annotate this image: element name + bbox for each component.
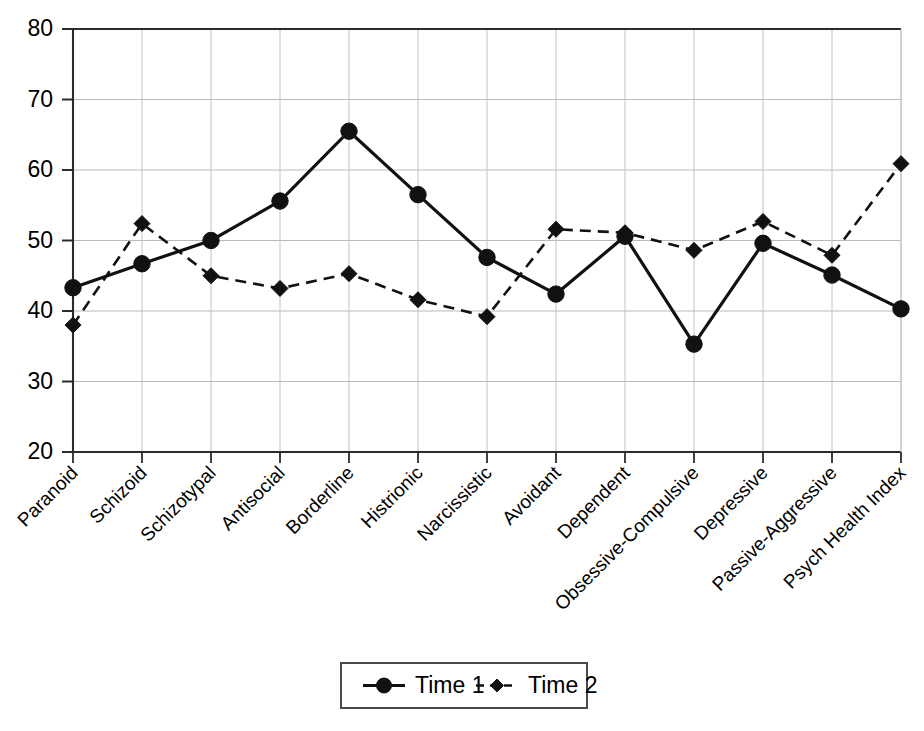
- data-point-marker: [548, 286, 564, 302]
- x-axis-ticks: [73, 452, 901, 463]
- x-axis-tick-label: Schizotypal: [136, 462, 220, 546]
- chart-legend: Time 1Time 2: [341, 663, 597, 708]
- data-point-marker: [410, 292, 426, 308]
- x-axis-tick-label: Antisocial: [216, 462, 288, 534]
- data-point-marker: [410, 186, 426, 202]
- data-point-marker: [893, 156, 909, 172]
- x-axis-tick-label: Passive-Aggressive: [708, 462, 841, 595]
- data-point-marker: [272, 193, 288, 209]
- x-axis-tick-label: Schizoid: [85, 462, 151, 528]
- x-axis-tick-label: Psych Health Index: [779, 462, 910, 593]
- y-axis-tick-labels: 20304050607080: [27, 15, 53, 464]
- data-point-marker: [341, 266, 357, 282]
- data-point-marker: [755, 235, 771, 251]
- y-axis-tick-label: 30: [27, 368, 53, 394]
- x-axis-tick-label: Obsessive-Compulsive: [551, 462, 703, 614]
- data-point-marker: [893, 301, 909, 317]
- y-axis-tick-label: 80: [27, 15, 53, 41]
- legend-marker-circle-icon: [377, 678, 392, 693]
- chart-container: 20304050607080 ParanoidSchizoidSchizotyp…: [0, 0, 924, 731]
- x-axis-tick-label: Avoidant: [498, 461, 565, 528]
- x-axis-tick-labels: ParanoidSchizoidSchizotypalAntisocialBor…: [13, 461, 910, 614]
- y-axis-tick-label: 40: [27, 297, 53, 323]
- y-axis-ticks: [62, 29, 73, 452]
- data-point-marker: [65, 280, 81, 296]
- y-axis-tick-label: 50: [27, 227, 53, 253]
- y-axis-tick-label: 70: [27, 86, 53, 112]
- data-point-marker: [203, 232, 219, 248]
- legend-label: Time 1: [415, 672, 484, 698]
- data-point-marker: [686, 336, 702, 352]
- data-point-marker: [824, 267, 840, 283]
- data-point-marker: [65, 317, 81, 333]
- y-axis-tick-label: 60: [27, 156, 53, 182]
- data-point-marker: [479, 249, 495, 265]
- data-point-marker: [134, 256, 150, 272]
- data-point-marker: [272, 280, 288, 296]
- data-point-marker: [341, 123, 357, 139]
- x-axis-tick-label: Borderline: [282, 462, 358, 538]
- data-point-marker: [755, 213, 771, 229]
- x-axis-tick-label: Histrionic: [357, 462, 427, 532]
- legend-label: Time 2: [528, 672, 597, 698]
- data-point-marker: [686, 242, 702, 258]
- x-axis-tick-label: Narcissistic: [413, 462, 496, 545]
- x-axis-tick-label: Paranoid: [13, 462, 82, 531]
- y-axis-tick-label: 20: [27, 438, 53, 464]
- line-chart: 20304050607080 ParanoidSchizoidSchizotyp…: [0, 0, 924, 731]
